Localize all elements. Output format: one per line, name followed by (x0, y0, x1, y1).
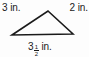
triangle-figure: 3 in. 2 in. 312in. (0, 0, 89, 57)
base-fraction: 12 (34, 44, 39, 57)
fraction-denominator: 2 (34, 51, 38, 57)
base-length-label: 312in. (28, 41, 52, 57)
triangle-outline (12, 11, 73, 35)
right-side-length-label: 2 in. (70, 2, 88, 13)
left-side-length-label: 3 in. (2, 2, 20, 13)
base-whole-number: 3 (28, 41, 33, 52)
base-unit-label: in. (41, 41, 51, 52)
